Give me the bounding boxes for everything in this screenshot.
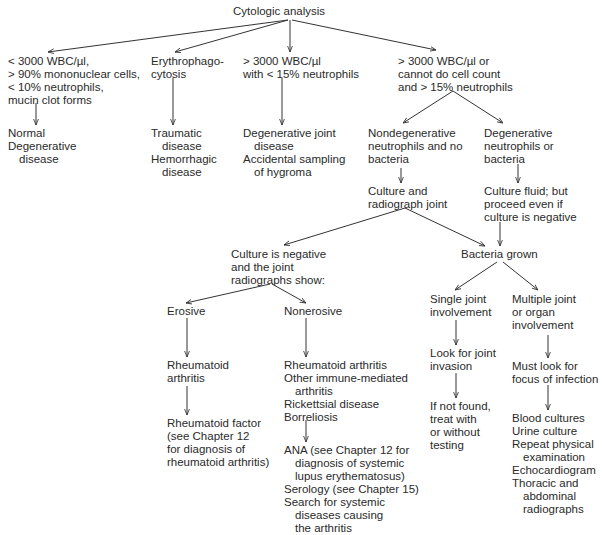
node-line: Traumatic: [151, 127, 217, 140]
node-low-wbc: < 3000 WBC/µl, > 90% mononuclear cells, …: [8, 55, 140, 107]
node-erythrophagocytosis: Erythrophago- cytosis: [151, 55, 224, 81]
node-line: Degenerative: [8, 140, 76, 153]
node-line: ANA (see Chapter 12 for: [284, 444, 419, 457]
node-line: > 3000 WBC/µl: [243, 55, 359, 68]
node-high-wbc-low-neutrophils: > 3000 WBC/µl with < 15% neutrophils: [243, 55, 359, 81]
node-line: Thoracic and: [512, 477, 596, 490]
node-line: rheumatoid arthritis): [167, 456, 269, 469]
node-line: radiograph joint: [368, 198, 447, 211]
node-line: for diagnosis of: [167, 443, 269, 456]
node-line: involvement: [512, 319, 576, 332]
root-label: Cytologic analysis: [233, 5, 325, 18]
node-line: Blood cultures: [512, 412, 596, 425]
node-line: involvement: [430, 306, 491, 319]
node-line: Rheumatoid: [167, 359, 229, 372]
node-line: Urine culture: [512, 425, 596, 438]
node-erosive: Erosive: [167, 305, 205, 318]
node-line: Rickettsial disease: [284, 398, 408, 411]
node-bacteria-grown: Bacteria grown: [461, 248, 538, 261]
node-line: Accidental sampling: [243, 153, 345, 166]
node-line: Single joint: [430, 293, 491, 306]
node-line: disease: [151, 140, 217, 153]
node-line: Bacteria grown: [461, 248, 538, 261]
node-culture-radiograph: Culture and radiograph joint: [368, 185, 447, 211]
node-line: with < 15% neutrophils: [243, 68, 359, 81]
node-nonerosive-list: Rheumatoid arthritis Other immune-mediat…: [284, 359, 408, 424]
node-line: mucin clot forms: [8, 94, 140, 107]
node-single-joint: Single joint involvement: [430, 293, 491, 319]
edge-high-wbc-degen: [453, 91, 503, 123]
node-line: the arthritis: [284, 522, 419, 535]
node-line: cytosis: [151, 68, 224, 81]
node-nondegenerative: Nondegenerative neutrophils and no bacte…: [368, 127, 463, 166]
node-line: treat with: [430, 413, 491, 426]
node-line: > 3000 WBC/µl or: [398, 55, 513, 68]
node-line: Erythrophago-: [151, 55, 224, 68]
node-line: disease: [243, 140, 345, 153]
node-normal: Normal Degenerative disease: [8, 127, 76, 166]
node-line: Culture is negative: [231, 248, 326, 261]
node-line: < 10% neutrophils,: [8, 81, 140, 94]
node-line: Degenerative: [484, 127, 554, 140]
node-line: focus of infection: [512, 373, 598, 386]
node-line: Repeat physical: [512, 438, 596, 451]
node-line: Serology (see Chapter 15): [284, 483, 419, 496]
edge-culture-radiograph-bacteria: [405, 208, 485, 246]
edge-bacteria-single: [455, 262, 497, 290]
node-line: Culture fluid; but: [484, 185, 577, 198]
node-line: Borreliosis: [284, 411, 408, 424]
node-line: Rheumatoid arthritis: [284, 359, 408, 372]
node-line: testing: [430, 439, 491, 452]
node-line: Search for systemic: [284, 496, 419, 509]
node-line: radiographs show:: [231, 274, 326, 287]
node-line: Nondegenerative: [368, 127, 463, 140]
node-line: arthritis: [167, 372, 229, 385]
node-must-look: Must look for focus of infection: [512, 360, 598, 386]
node-line: and the joint: [231, 261, 326, 274]
node-line: neutrophils and no: [368, 140, 463, 153]
node-line: diagnosis of systemic: [284, 457, 419, 470]
node-line: < 3000 WBC/µl,: [8, 55, 140, 68]
node-line: bacteria: [484, 153, 554, 166]
node-traumatic: Traumatic disease Hemorrhagic disease: [151, 127, 217, 179]
node-line: Must look for: [512, 360, 598, 373]
node-line: Nonerosive: [284, 305, 342, 318]
node-line: Look for joint: [430, 347, 496, 360]
edge-culture-radiograph-culture-negative: [284, 208, 405, 245]
node-rheumatoid-arthritis: Rheumatoid arthritis: [167, 359, 229, 385]
node-line: Echocardiogram: [512, 464, 596, 477]
node-not-found: If not found, treat with or without test…: [430, 400, 491, 452]
node-culture-negative: Culture is negative and the joint radiog…: [231, 248, 326, 287]
node-line: Rheumatoid factor: [167, 417, 269, 430]
node-line: cannot do cell count: [398, 68, 513, 81]
node-line: bacteria: [368, 153, 463, 166]
node-degenerative: Degenerative neutrophils or bacteria: [484, 127, 554, 166]
node-line: radiographs: [512, 503, 596, 516]
node-line: disease: [8, 153, 76, 166]
node-line: Other immune-mediated: [284, 372, 408, 385]
node-line: Hemorrhagic: [151, 153, 217, 166]
node-line: arthritis: [284, 385, 408, 398]
node-line: Erosive: [167, 305, 205, 318]
node-nonerosive: Nonerosive: [284, 305, 342, 318]
node-ana: ANA (see Chapter 12 for diagnosis of sys…: [284, 444, 419, 535]
node-line: Degenerative joint: [243, 127, 345, 140]
node-line: Multiple joint: [512, 293, 576, 306]
node-culture-fluid: Culture fluid; but proceed even if cultu…: [484, 185, 577, 224]
node-line: abdominal: [512, 490, 596, 503]
node-line: proceed even if: [484, 198, 577, 211]
node-line: neutrophils or: [484, 140, 554, 153]
node-line: or organ: [512, 306, 576, 319]
node-line: invasion: [430, 360, 496, 373]
edge-bacteria-multiple: [503, 262, 538, 290]
node-line: If not found,: [430, 400, 491, 413]
edge-high-wbc-nondegen: [403, 91, 453, 123]
edge-root-high-wbc: [292, 20, 436, 50]
node-line: diseases causing: [284, 509, 419, 522]
node-degenerative-joint-disease: Degenerative joint disease Accidental sa…: [243, 127, 345, 179]
node-line: (see Chapter 12: [167, 430, 269, 443]
node-line: disease: [151, 166, 217, 179]
root-node: Cytologic analysis: [233, 5, 325, 18]
node-rheumatoid-factor: Rheumatoid factor (see Chapter 12 for di…: [167, 417, 269, 469]
node-cultures: Blood cultures Urine culture Repeat phys…: [512, 412, 596, 516]
